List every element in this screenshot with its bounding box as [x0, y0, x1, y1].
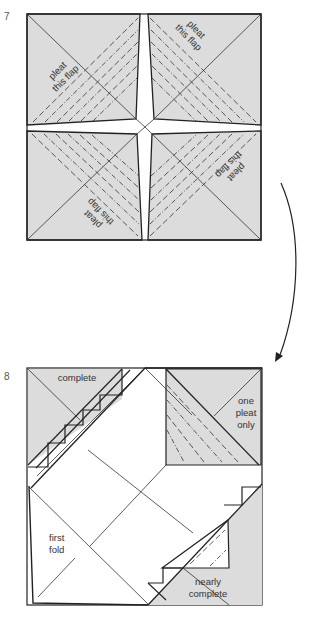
- step-7-flap-bottom-right: [148, 131, 261, 240]
- step-7-flap-top-left: [27, 14, 140, 125]
- svg-text:complete: complete: [58, 372, 97, 383]
- svg-text:first: first: [49, 532, 65, 543]
- svg-text:fold: fold: [49, 544, 64, 555]
- step-8-label-complete: complete: [58, 372, 97, 383]
- svg-text:one: one: [238, 395, 254, 406]
- svg-text:complete: complete: [189, 588, 228, 599]
- step-8-diagram: complete one pleat only first fold nearl…: [27, 368, 262, 605]
- step-7-flap-bottom-left: [27, 131, 142, 240]
- step-7-diagram: pleat this flap pleat this flap pleat th…: [27, 14, 261, 240]
- svg-text:pleat: pleat: [236, 407, 257, 418]
- step-8-label-one-pleat-only: one pleat only: [236, 395, 257, 430]
- svg-text:only: only: [237, 419, 255, 430]
- step-8-label-first-fold: first fold: [49, 532, 65, 555]
- curved-arrow-down-icon: [275, 183, 296, 362]
- svg-text:nearly: nearly: [195, 576, 221, 587]
